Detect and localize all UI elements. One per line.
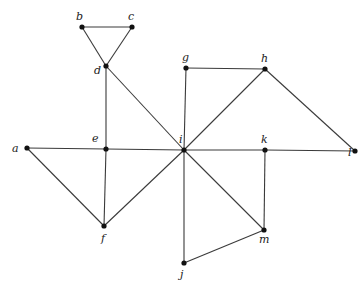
vertex-j	[181, 260, 186, 265]
vertex-label-b: b	[76, 10, 83, 23]
vertex-e	[103, 146, 108, 151]
edge-c-d	[106, 27, 132, 66]
vertex-label-h: h	[261, 52, 268, 65]
edge-f-i	[104, 150, 184, 226]
vertex-l	[352, 148, 357, 153]
vertex-label-l: l	[348, 146, 352, 159]
edge-g-i	[184, 68, 186, 150]
vertex-b	[79, 24, 84, 29]
edge-k-m	[264, 150, 265, 230]
edge-k-l	[265, 150, 355, 151]
graph-vertices	[24, 24, 357, 265]
vertex-label-d: d	[94, 64, 101, 77]
edge-h-l	[265, 69, 355, 151]
vertex-h	[262, 66, 267, 71]
vertex-c	[129, 24, 134, 29]
vertex-label-a: a	[12, 142, 19, 155]
edge-e-f	[104, 149, 106, 226]
vertex-labels: abcdefghiklmj	[12, 10, 352, 281]
vertex-label-g: g	[182, 51, 189, 64]
edge-g-h	[186, 68, 265, 69]
graph-edges	[27, 27, 355, 263]
edge-i-m	[184, 150, 264, 230]
vertex-m	[261, 227, 266, 232]
edge-b-d	[82, 27, 106, 66]
vertex-k	[262, 147, 267, 152]
edge-j-m	[184, 230, 264, 263]
edge-a-f	[27, 148, 104, 226]
edge-d-i	[106, 66, 184, 150]
vertex-label-k: k	[261, 133, 268, 146]
vertex-i	[181, 147, 186, 152]
vertex-label-e: e	[92, 132, 99, 145]
graph-diagram: abcdefghiklmj	[0, 0, 364, 295]
vertex-d	[103, 63, 108, 68]
vertex-f	[101, 223, 106, 228]
edge-h-i	[184, 69, 265, 150]
vertex-label-m: m	[259, 233, 269, 246]
edge-e-i	[106, 149, 184, 150]
vertex-g	[183, 65, 188, 70]
vertex-label-c: c	[128, 10, 134, 23]
vertex-label-f: f	[100, 232, 107, 245]
edge-a-e	[27, 148, 106, 149]
vertex-label-j: j	[177, 268, 184, 281]
vertex-a	[24, 145, 29, 150]
vertex-label-i: i	[179, 133, 183, 146]
